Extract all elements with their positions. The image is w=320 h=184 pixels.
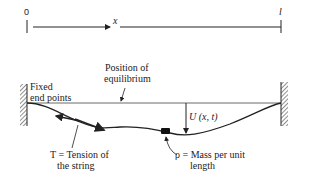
axis-end-label: l (279, 7, 282, 17)
fixed-label-line1: Fixed (30, 82, 53, 92)
tension-label-line1: T = Tension of (50, 150, 109, 160)
tension-pointer (72, 125, 78, 148)
tension-label-line2: the string (57, 161, 95, 171)
axis-variable-label: x (113, 16, 117, 26)
tension-arrow-right (75, 119, 104, 130)
fixed-label-line2: end points (30, 93, 71, 103)
displacement-label: U (x, t) (189, 112, 218, 122)
axis-start-label: 0 (24, 7, 29, 17)
mass-label-line1: ρ = Mass per unit (175, 150, 245, 160)
right-wall-hatch (281, 82, 288, 126)
mass-label-line2: length (190, 161, 215, 171)
string-curve (27, 103, 281, 135)
equilibrium-label-line1: Position of (105, 63, 149, 73)
equilibrium-label-line2: equilibrium (104, 74, 151, 84)
left-wall-hatch (20, 84, 27, 126)
x-axis (27, 20, 281, 33)
equilibrium-pointer (121, 88, 125, 101)
mass-element (161, 128, 170, 134)
